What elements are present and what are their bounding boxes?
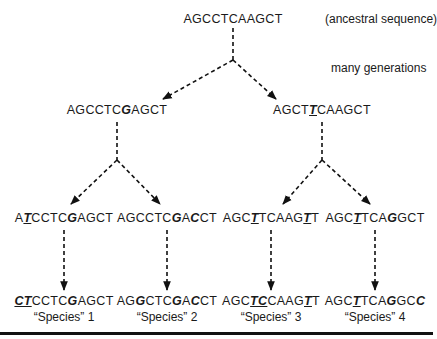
mutation-marker: C (416, 294, 425, 308)
base-run: AG (117, 294, 136, 308)
lineage-left-sequence: AGCCTCGAGCT (67, 103, 168, 117)
mutation-marker: G (172, 294, 182, 308)
base-run: TCAAG (259, 211, 304, 225)
time-note: many generations (331, 61, 426, 75)
lineage-right-sequence: AGCTTCAAGCT (273, 103, 371, 117)
mutation-marker: CT (14, 294, 31, 308)
base-run: A (15, 211, 24, 225)
base-run: TCA (361, 211, 387, 225)
base-run: CT (200, 211, 217, 225)
base-run: AGC (325, 294, 353, 308)
mutation-marker: G (387, 211, 397, 225)
species-4-sequence: AGCTTCAGGCC (325, 294, 426, 308)
base-run: AGCT (131, 103, 167, 117)
base-run: GCT (397, 211, 424, 225)
mutation-marker: TC (250, 294, 267, 308)
base-run: CTC (145, 294, 172, 308)
branch-2-sequence: AGCCTCGACCT (117, 211, 217, 225)
base-run: AGCCTC (67, 103, 122, 117)
base-run: CT (200, 294, 217, 308)
mutation-marker: G (172, 211, 182, 225)
branch-1-sequence: ATCCTCGAGCT (15, 211, 113, 225)
base-run: CCTC (31, 211, 67, 225)
base-run: AGCCTC (117, 211, 172, 225)
mutation-marker: C (190, 211, 199, 225)
ancestral-sequence: AGCCTCAAGCT (183, 12, 282, 26)
branch-4-sequence: AGCTTCAGGCT (325, 211, 424, 225)
species-1-label: “Species” 1 (34, 310, 95, 324)
species-3-label: “Species” 3 (241, 310, 302, 324)
base-run: A (182, 211, 191, 225)
base-run: AGC (325, 211, 353, 225)
mutation-marker: C (191, 294, 200, 308)
base-run: CCTC (32, 294, 68, 308)
base-run: AGC (222, 294, 250, 308)
mutation-marker: G (67, 211, 77, 225)
base-run: AGCT (273, 103, 309, 117)
species-4-label: “Species” 4 (345, 310, 406, 324)
mutation-marker: G (387, 294, 397, 308)
species-2-label: “Species” 2 (137, 310, 198, 324)
mutation-marker: T (309, 103, 317, 117)
species-2-sequence: AGGCTCGACCT (117, 294, 218, 308)
base-run: AGCT (78, 294, 114, 308)
mutation-marker: T (353, 294, 361, 308)
mutation-marker: T (251, 211, 259, 225)
base-run: T (311, 211, 319, 225)
ancestral-annotation: (ancestral sequence) (325, 12, 437, 26)
branch-3-sequence: AGCTTCAAGTT (223, 211, 319, 225)
species-3-sequence: AGCTCCAAGTT (222, 294, 320, 308)
bottom-rule (0, 332, 433, 335)
mutation-marker: G (121, 103, 131, 117)
base-run: CAAG (267, 294, 304, 308)
species-1-sequence: CTCCTCGAGCT (14, 294, 113, 308)
base-run: AGC (223, 211, 251, 225)
base-run: A (182, 294, 191, 308)
base-run: T (312, 294, 320, 308)
base-run: GC (397, 294, 416, 308)
mutation-marker: T (23, 211, 31, 225)
base-run: TCA (361, 294, 387, 308)
base-run: CAAGCT (317, 103, 371, 117)
mutation-marker: G (68, 294, 78, 308)
base-run: AGCT (77, 211, 113, 225)
mutation-marker: T (353, 211, 361, 225)
mutation-marker: T (304, 294, 312, 308)
mutation-marker: G (135, 294, 145, 308)
